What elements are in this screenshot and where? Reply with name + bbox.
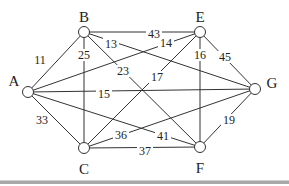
node-label-C: C xyxy=(79,161,89,177)
edge-weight-label: 16 xyxy=(194,48,206,62)
node-E xyxy=(195,27,206,38)
edge-weight-label: 19 xyxy=(223,113,235,127)
edge-weight-label: 41 xyxy=(157,129,169,143)
edge-weight-label: 37 xyxy=(139,144,151,158)
graph-diagram: 113315144143251323171645363719 ABEGCF xyxy=(0,0,289,186)
edge-weight-label: 17 xyxy=(151,70,163,84)
node-label-A: A xyxy=(9,73,20,89)
edge-weight-label: 45 xyxy=(219,50,231,64)
node-G xyxy=(250,84,261,95)
node-B xyxy=(79,27,90,38)
edge-labels-layer: 113315144143251323171645363719 xyxy=(32,27,237,158)
graph-canvas: 113315144143251323171645363719 ABEGCF xyxy=(0,0,289,186)
node-label-B: B xyxy=(79,9,89,25)
edge-weight-label: 25 xyxy=(78,48,90,62)
node-label-F: F xyxy=(196,160,204,176)
edge-weight-label: 33 xyxy=(36,113,48,127)
edge-weight-label: 43 xyxy=(148,27,160,41)
node-C xyxy=(79,143,90,154)
edge-weight-label: 13 xyxy=(105,37,117,51)
node-F xyxy=(195,142,206,153)
node-label-E: E xyxy=(195,9,204,25)
edge-weight-label: 11 xyxy=(34,53,46,67)
node-label-G: G xyxy=(267,75,278,91)
edge-weight-label: 36 xyxy=(115,128,127,142)
bottom-divider xyxy=(0,180,289,184)
edge-weight-label: 15 xyxy=(98,87,110,101)
node-A xyxy=(23,87,34,98)
edge-weight-label: 23 xyxy=(117,64,129,78)
